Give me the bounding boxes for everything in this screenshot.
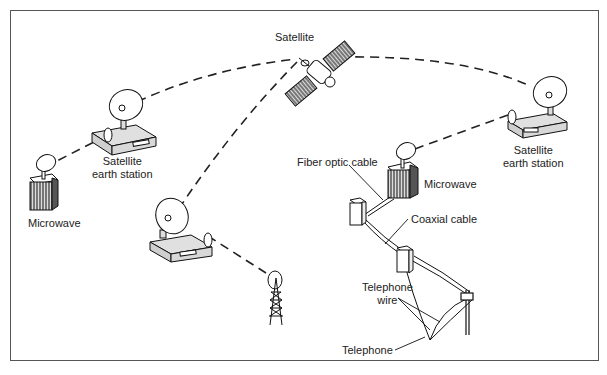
microwave-left-icon bbox=[30, 152, 58, 210]
label-telephone: Telephone bbox=[342, 344, 393, 357]
radio-tower-icon bbox=[268, 271, 283, 325]
satellite-icon bbox=[285, 41, 355, 106]
link-satellite-earth-right bbox=[340, 57, 528, 85]
label-earth-station-left: Satellite earth station bbox=[92, 155, 153, 181]
label-microwave-right: Microwave bbox=[424, 178, 477, 191]
fiber-optic-cable-line bbox=[364, 197, 394, 216]
earth-station-left-icon bbox=[92, 84, 156, 155]
telephone-wire-line bbox=[411, 256, 470, 295]
label-fiber-optic-cable: Fiber optic cable bbox=[297, 156, 378, 169]
label-earth-station-right: Satellite earth station bbox=[503, 144, 564, 170]
label-satellite: Satellite bbox=[275, 31, 314, 44]
earth-station-center-icon bbox=[150, 194, 212, 262]
junction-box-2-icon bbox=[397, 246, 413, 273]
link-earth-left-satellite bbox=[124, 59, 296, 108]
link-earth-center-radio bbox=[208, 236, 266, 273]
network-diagram bbox=[0, 0, 607, 375]
label-coaxial-cable: Coaxial cable bbox=[411, 213, 477, 226]
label-microwave-left: Microwave bbox=[28, 217, 81, 230]
link-satellite-earth-center bbox=[170, 62, 297, 222]
link-earth-right-microwave-right bbox=[412, 115, 508, 150]
label-telephone-wire: Telephone wire bbox=[362, 281, 413, 307]
junction-box-1-icon bbox=[350, 198, 366, 225]
telephone-pole-icon bbox=[461, 290, 473, 335]
microwave-right-icon bbox=[388, 140, 418, 198]
